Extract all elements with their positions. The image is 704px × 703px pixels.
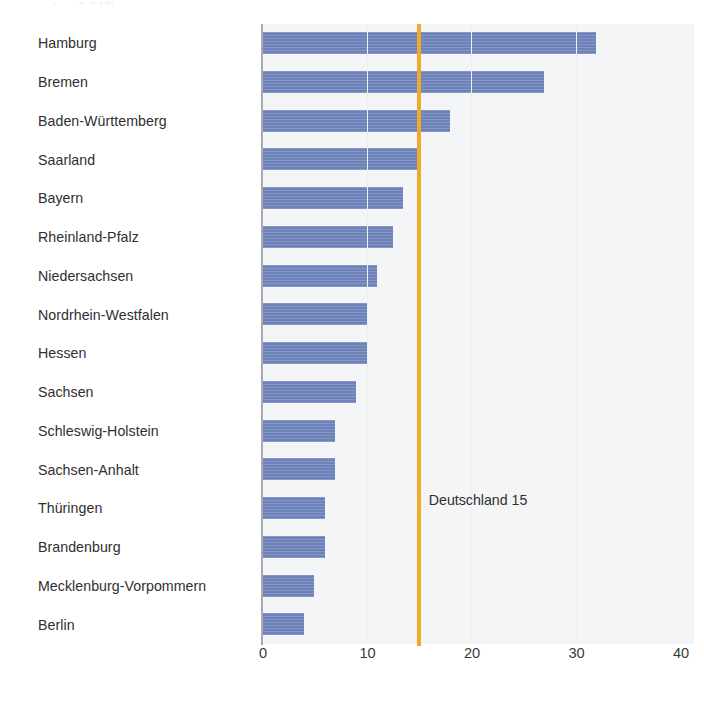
bar-row <box>262 24 694 63</box>
category-label-row: Schleswig-Holstein <box>0 412 252 451</box>
category-label-row: Nordrhein-Westfalen <box>0 295 252 334</box>
x-tick-label: 30 <box>568 645 584 661</box>
reference-line-deutschland <box>417 24 421 646</box>
bar-row <box>262 102 694 141</box>
category-label-row: Sachsen <box>0 373 252 412</box>
category-label-row: Rheinland-Pfalz <box>0 218 252 257</box>
category-label: Rheinland-Pfalz <box>0 229 139 245</box>
x-tick-label: 10 <box>359 645 375 661</box>
category-label-row: Thüringen <box>0 489 252 528</box>
bar[interactable] <box>262 187 403 209</box>
category-label: Bremen <box>0 74 88 90</box>
bar[interactable] <box>262 613 304 635</box>
category-label: Mecklenburg-Vorpommern <box>0 578 206 594</box>
gridline <box>471 24 472 644</box>
category-label-row: Bayern <box>0 179 252 218</box>
bar-row <box>262 295 694 334</box>
category-label-row: Sachsen-Anhalt <box>0 450 252 489</box>
gridline <box>367 24 368 644</box>
bar[interactable] <box>262 420 335 442</box>
bar-row <box>262 567 694 606</box>
bar[interactable] <box>262 342 367 364</box>
category-label: Baden-Württemberg <box>0 113 167 129</box>
category-label: Niedersachsen <box>0 268 133 284</box>
category-label: Nordrhein-Westfalen <box>0 307 169 323</box>
category-label: Sachsen-Anhalt <box>0 462 139 478</box>
bar-row <box>262 179 694 218</box>
category-label-row: Saarland <box>0 140 252 179</box>
bar[interactable] <box>262 32 596 54</box>
bar-row <box>262 218 694 257</box>
bar-row <box>262 605 694 644</box>
bar-row <box>262 140 694 179</box>
category-label: Thüringen <box>0 500 102 516</box>
bar-row <box>262 63 694 102</box>
bar-row <box>262 334 694 373</box>
category-label: Hessen <box>0 345 86 361</box>
reference-line-label: Deutschland 15 <box>429 492 528 508</box>
gridline <box>576 24 577 644</box>
bar[interactable] <box>262 148 419 170</box>
category-label-row: Bremen <box>0 63 252 102</box>
bar[interactable] <box>262 110 450 132</box>
bar-row <box>262 450 694 489</box>
bar[interactable] <box>262 381 356 403</box>
category-label: Schleswig-Holstein <box>0 423 159 439</box>
category-label-row: Niedersachsen <box>0 257 252 296</box>
bar[interactable] <box>262 226 393 248</box>
category-label-row: Berlin <box>0 605 252 644</box>
x-axis-tick-labels: 010203040 <box>0 645 704 675</box>
y-axis-line <box>261 24 263 645</box>
x-tick-label: 40 <box>673 645 689 661</box>
bar[interactable] <box>262 536 325 558</box>
category-axis-labels: HamburgBremenBaden-WürttembergSaarlandBa… <box>0 24 252 644</box>
x-tick-label: 0 <box>259 645 267 661</box>
category-label: Berlin <box>0 617 75 633</box>
category-label-row: Mecklenburg-Vorpommern <box>0 567 252 606</box>
bar-row <box>262 528 694 567</box>
category-label: Hamburg <box>0 35 97 51</box>
category-label: Saarland <box>0 152 95 168</box>
category-label-row: Hamburg <box>0 24 252 63</box>
bar-row <box>262 412 694 451</box>
x-tick-label: 20 <box>464 645 480 661</box>
bar-row <box>262 257 694 296</box>
bar[interactable] <box>262 575 314 597</box>
category-label-row: Baden-Württemberg <box>0 102 252 141</box>
category-label: Sachsen <box>0 384 94 400</box>
bar[interactable] <box>262 458 335 480</box>
bar[interactable] <box>262 265 377 287</box>
chart-screenshot: (n = 1.240) HamburgBremenBaden-Württembe… <box>0 0 704 703</box>
bar-row <box>262 373 694 412</box>
bar[interactable] <box>262 71 544 93</box>
category-label-row: Hessen <box>0 334 252 373</box>
bar[interactable] <box>262 303 367 325</box>
category-label: Brandenburg <box>0 539 121 555</box>
category-label-row: Brandenburg <box>0 528 252 567</box>
bar[interactable] <box>262 497 325 519</box>
horizontal-bar-chart: HamburgBremenBaden-WürttembergSaarlandBa… <box>0 0 704 703</box>
category-label: Bayern <box>0 190 83 206</box>
plot-area <box>262 24 694 644</box>
